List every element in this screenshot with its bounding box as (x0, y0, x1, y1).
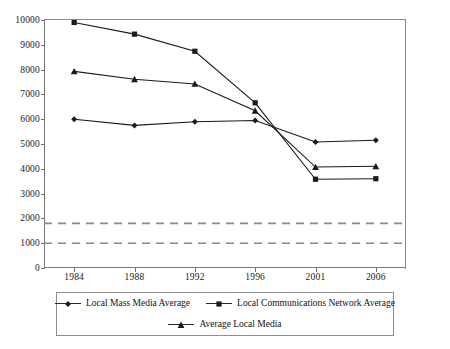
data-point-marker-diamond (192, 119, 198, 125)
legend-marker-square-icon (206, 299, 232, 309)
series-line (74, 71, 376, 167)
series-line (74, 22, 376, 179)
y-axis-tick-mark (41, 144, 45, 145)
chart-screenshot: 0100020003000400050006000700080009000100… (0, 0, 450, 349)
y-axis-tick-mark (41, 70, 45, 71)
y-axis-tick-mark (41, 94, 45, 95)
y-axis-tick-mark (41, 194, 45, 195)
x-axis-tick-mark (195, 268, 196, 272)
data-point-marker-square (216, 301, 221, 306)
data-point-marker-triangle (178, 321, 185, 327)
x-axis-tick-mark (316, 268, 317, 272)
x-axis-tick-mark (376, 268, 377, 272)
data-point-marker-square (313, 177, 318, 182)
legend-row: Average Local Media (57, 314, 393, 335)
legend-label: Local Communications Network Average (237, 299, 395, 309)
y-axis-tick-mark (41, 119, 45, 120)
legend-label: Average Local Media (199, 320, 281, 330)
data-point-marker-square (373, 176, 378, 181)
data-point-marker-triangle (71, 68, 78, 74)
y-axis-tick-mark (41, 268, 45, 269)
y-axis-tick-mark (41, 218, 45, 219)
legend-item[interactable]: Average Local Media (168, 320, 281, 330)
data-point-marker-diamond (373, 137, 379, 143)
y-axis-tick-mark (41, 45, 45, 46)
series-layer (0, 0, 450, 290)
legend-item[interactable]: Local Communications Network Average (206, 299, 395, 309)
x-axis-tick-mark (74, 268, 75, 272)
series-line (74, 119, 376, 142)
data-point-marker-square (192, 49, 197, 54)
data-point-marker-diamond (65, 301, 71, 307)
x-axis-tick-mark (255, 268, 256, 272)
chart-legend: Local Mass Media AverageLocal Communicat… (56, 292, 394, 336)
series-3 (71, 68, 379, 170)
y-axis-tick-mark (41, 169, 45, 170)
data-point-marker-diamond (132, 122, 138, 128)
data-point-marker-diamond (252, 117, 258, 123)
line-chart: 0100020003000400050006000700080009000100… (0, 0, 450, 290)
legend-label: Local Mass Media Average (86, 299, 190, 309)
data-point-marker-diamond (313, 139, 319, 145)
series-1 (71, 116, 379, 145)
legend-row: Local Mass Media AverageLocal Communicat… (57, 293, 393, 314)
y-axis-tick-mark (41, 243, 45, 244)
data-point-marker-square (253, 100, 258, 105)
data-point-marker-square (72, 20, 77, 25)
legend-marker-diamond-icon (55, 299, 81, 309)
legend-item[interactable]: Local Mass Media Average (55, 299, 190, 309)
data-point-marker-triangle (252, 107, 259, 113)
data-point-marker-square (132, 32, 137, 37)
legend-marker-triangle-icon (168, 320, 194, 330)
y-axis-tick-mark (41, 20, 45, 21)
series-2 (72, 20, 379, 182)
x-axis-tick-mark (135, 268, 136, 272)
data-point-marker-diamond (71, 116, 77, 122)
